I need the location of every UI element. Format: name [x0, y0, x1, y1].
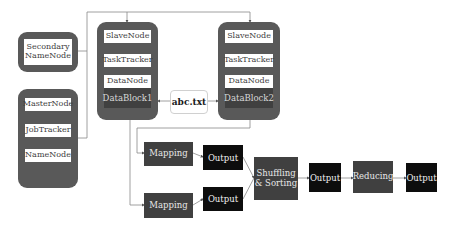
datablock-1: DataBlock1 [104, 88, 151, 108]
secondary-namenode-group: Secondary NameNode [18, 32, 78, 72]
output-box-4: Output [406, 163, 437, 192]
jobtracker-box: JobTracker [25, 124, 71, 137]
reducing-box: Reducing [353, 161, 393, 193]
namenode-box: NameNode [25, 149, 71, 162]
slave-group-2: SlaveNode TaskTracker DataNode DataBlock… [218, 22, 280, 120]
master-group: MasterNode JobTracker NameNode [18, 89, 78, 188]
datablock-2: DataBlock2 [225, 88, 273, 108]
datanode-box-2: DataNode [225, 75, 273, 88]
mapping-box-1: Mapping [144, 142, 193, 166]
shuffling-sorting-box: Shuffling & Sorting [254, 157, 298, 200]
slavenode-box-2: SlaveNode [225, 30, 273, 43]
masternode-box: MasterNode [25, 98, 71, 111]
file-abc-txt: abc.txt [170, 90, 208, 114]
slave-group-1: SlaveNode TaskTracker DataNode DataBlock… [97, 22, 158, 120]
tasktracker-box-1: TaskTracker [104, 54, 151, 67]
mapping-box-2: Mapping [144, 193, 193, 218]
datanode-box-1: DataNode [104, 75, 151, 88]
shuffling-line2: & Sorting [255, 179, 297, 189]
secondary-namenode-box: Secondary NameNode [24, 39, 72, 65]
output-box-3: Output [309, 163, 341, 192]
slavenode-box-1: SlaveNode [104, 30, 151, 43]
tasktracker-box-2: TaskTracker [225, 54, 273, 67]
secondary-namenode-line2: NameNode [25, 52, 71, 61]
output-box-1: Output [203, 145, 243, 170]
output-box-2: Output [203, 187, 243, 211]
